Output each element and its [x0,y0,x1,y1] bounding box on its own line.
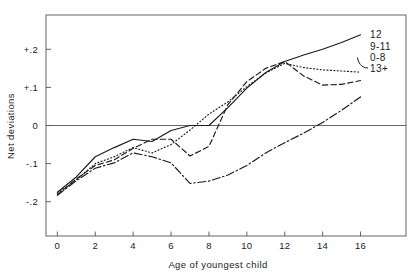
x-axis-ticks [57,232,360,237]
y-tick-label: -.1 [26,158,38,169]
line-chart-canvas: 0246810121416 +.2+.10-.1-.2 129-110-813+… [0,0,414,279]
y-axis-tick-labels: +.2+.10-.1-.2 [24,44,38,207]
data-series-group [57,35,360,195]
series-line-0-8 [57,61,360,194]
y-tick-label: +.2 [24,44,38,55]
x-tick-label: 2 [92,240,98,251]
x-tick-label: 4 [130,240,136,251]
x-tick-label: 6 [168,240,174,251]
series-label-13-: 13+ [370,63,388,74]
y-tick-label: -.2 [26,196,38,207]
axis-titles: Age of youngest childNet deviations [5,93,268,270]
series-end-labels: 129-110-813+ [370,29,391,73]
series-label-0-8: 0-8 [370,52,386,63]
series-line-13- [57,97,360,195]
series-label-12: 12 [370,29,382,40]
chart-figure: 0246810121416 +.2+.10-.1-.2 129-110-813+… [0,0,414,279]
x-tick-label: 8 [206,240,212,251]
x-tick-label: 10 [241,240,252,251]
series-label-9-11: 9-11 [370,41,391,52]
y-axis-ticks [46,49,51,201]
x-tick-label: 14 [317,240,328,251]
x-tick-label: 12 [279,240,290,251]
y-axis-title: Net deviations [5,93,16,159]
y-tick-label: +.1 [24,82,38,93]
y-tick-label: 0 [32,120,38,131]
x-axis-tick-labels: 0246810121416 [55,240,367,251]
series-line-12 [57,35,360,192]
label-leader-lines [358,58,369,69]
leader-line-13plus [358,58,369,69]
x-axis-title: Age of youngest child [168,259,267,270]
x-tick-label: 16 [355,240,366,251]
series-line-9-11 [57,63,360,193]
x-tick-label: 0 [55,240,61,251]
